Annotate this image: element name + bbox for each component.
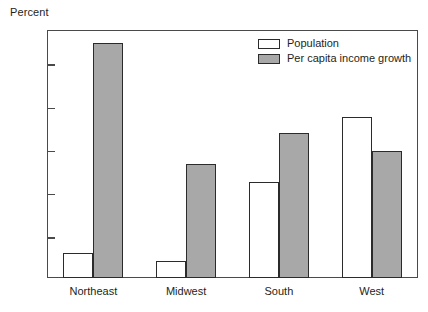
chart-legend: PopulationPer capita income growth — [258, 37, 411, 67]
x-axis-label-midwest: Midwest — [166, 285, 206, 297]
x-axis-label-northeast: Northeast — [70, 285, 118, 297]
x-axis-label-south: South — [265, 285, 294, 297]
y-axis-title: Percent — [10, 6, 49, 18]
bar-west-population — [342, 117, 372, 278]
bar-northeast-population — [63, 253, 93, 278]
bar-south-income — [279, 133, 309, 278]
x-axis-label-west: West — [359, 285, 384, 297]
bar-south-population — [249, 182, 279, 278]
legend-swatch-icon — [258, 54, 280, 64]
bar-midwest-income — [186, 164, 216, 278]
bar-midwest-population — [156, 261, 186, 278]
plot-area — [47, 30, 418, 278]
bar-west-income — [372, 151, 402, 278]
legend-swatch-icon — [258, 39, 280, 49]
legend-item-label: Per capita income growth — [287, 53, 411, 64]
bar-northeast-income — [93, 43, 123, 278]
bar-chart: Percent 0.050.10.150.20.25 NortheastMidw… — [0, 0, 428, 312]
legend-item-label: Population — [287, 38, 339, 49]
legend-item-population: Population — [258, 37, 411, 50]
legend-item-per-capita-income-growth: Per capita income growth — [258, 52, 411, 65]
